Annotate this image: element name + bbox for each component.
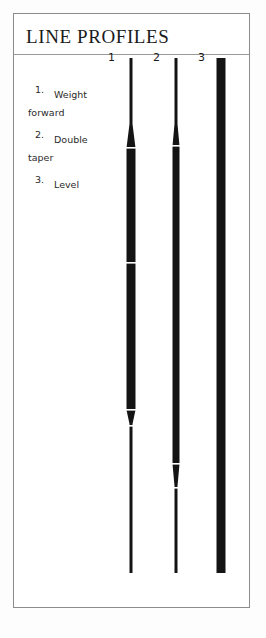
list-item-label: Level [54, 179, 79, 190]
profile-label-3: 3 [198, 51, 205, 64]
list-item-number: 1. [28, 84, 44, 95]
panel-content: LINE PROFILES 1. Weight forward 2. Doubl… [14, 14, 249, 607]
weight-forward-profile-drawing [122, 58, 140, 578]
page-canvas: LINE PROFILES 1. Weight forward 2. Doubl… [0, 0, 266, 638]
profile-column-1: 1 [106, 43, 146, 603]
level-profile-drawing [212, 58, 230, 578]
list-item-number: 2. [28, 129, 44, 140]
profile-label-2: 2 [153, 51, 160, 64]
page-title: LINE PROFILES [26, 26, 169, 48]
line-profiles-panel: LINE PROFILES 1. Weight forward 2. Doubl… [13, 13, 250, 608]
profile-column-3: 3 [196, 43, 236, 603]
double-taper-profile-drawing [167, 58, 185, 578]
profile-label-1: 1 [108, 51, 115, 64]
list-item-number: 3. [28, 174, 44, 185]
profile-column-2: 2 [151, 43, 191, 603]
